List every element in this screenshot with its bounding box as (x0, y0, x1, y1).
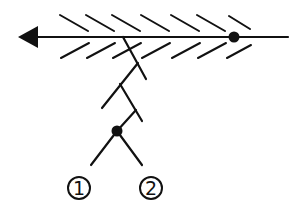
label-1: 1 (68, 177, 90, 199)
hatch-lower (227, 45, 251, 58)
leg-1 (91, 131, 117, 165)
hatch-upper (112, 15, 140, 31)
hatch-lower (87, 43, 115, 58)
lower-hatches (61, 43, 251, 58)
leg-2 (117, 131, 142, 165)
upper-hatches (60, 15, 250, 31)
hatch-upper (86, 15, 114, 31)
label-1-text: 1 (73, 177, 85, 199)
branch (91, 37, 146, 165)
hatch-upper (141, 15, 169, 31)
hatch-upper (171, 15, 199, 31)
diagram-canvas: 1 2 (0, 0, 305, 216)
hatch-upper (229, 16, 250, 29)
hatch-upper (197, 15, 225, 31)
junction-dot (229, 32, 240, 43)
hatch-lower (198, 43, 226, 58)
hatch-upper (60, 15, 88, 31)
hatch-lower (142, 43, 170, 58)
label-2: 2 (140, 177, 162, 199)
arrowhead-left-icon (18, 26, 38, 48)
hatch-lower (61, 43, 89, 58)
label-2-text: 2 (145, 177, 157, 199)
hatch-lower (172, 43, 200, 58)
